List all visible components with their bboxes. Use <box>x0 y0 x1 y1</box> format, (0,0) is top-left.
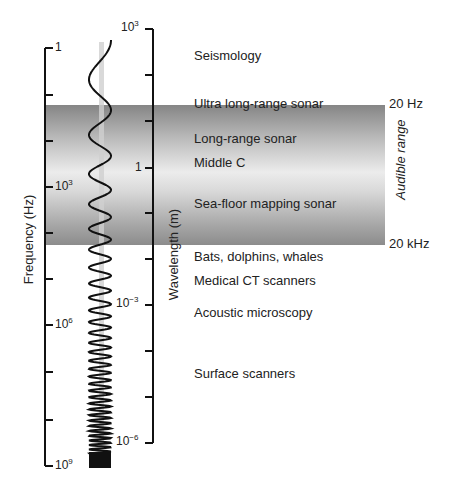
app-ultra-long-range-sonar: Ultra long-range sonar <box>194 96 323 111</box>
app-long-range-sonar: Long-range sonar <box>194 131 297 146</box>
audible-range-label: Audible range <box>393 115 408 205</box>
app-sea-floor-mapping-sonar: Sea-floor mapping sonar <box>194 196 336 211</box>
freq-tick-1: 1 <box>55 40 62 54</box>
wl-tick-1e-6: 10−6 <box>116 434 138 448</box>
app-surface-scanners: Surface scanners <box>194 366 295 381</box>
audible-bottom-20khz: 20 kHz <box>389 236 429 251</box>
axes-and-wave <box>0 0 455 493</box>
wavelength-axis <box>145 29 153 443</box>
app-acoustic-microscopy: Acoustic microscopy <box>194 305 312 320</box>
wl-tick-1: 1 <box>135 160 142 174</box>
wl-tick-1e3: 103 <box>121 20 139 34</box>
freq-tick-1e9: 109 <box>55 458 73 472</box>
freq-tick-1e3: 103 <box>55 179 73 193</box>
app-middle-c: Middle C <box>194 155 245 170</box>
app-bats-dolphins-whales: Bats, dolphins, whales <box>194 249 323 264</box>
freq-tick-1e6: 106 <box>55 317 73 331</box>
wl-tick-1e-3: 10−3 <box>116 296 138 310</box>
wavelength-axis-label: Wavelength (m) <box>166 205 181 305</box>
wave-dense-end <box>89 452 111 468</box>
frequency-axis-label: Frequency (Hz) <box>21 190 36 290</box>
app-seismology: Seismology <box>194 48 261 63</box>
audible-top-20hz: 20 Hz <box>389 96 423 111</box>
frequency-axis <box>45 48 53 466</box>
app-medical-ct-scanners: Medical CT scanners <box>194 273 316 288</box>
